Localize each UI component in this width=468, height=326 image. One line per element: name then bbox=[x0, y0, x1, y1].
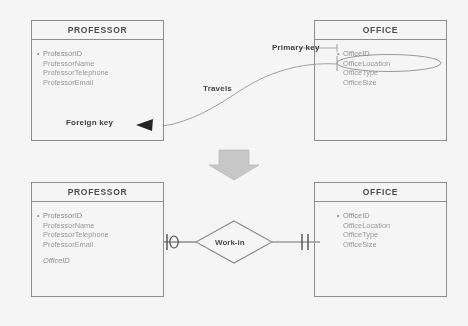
cardinality-left-circle bbox=[170, 236, 178, 248]
attribute-professoremail-bottom: ProfessorEmail bbox=[43, 240, 163, 250]
attribute-officesize-bottom: OfficeSize bbox=[343, 240, 446, 250]
entity-professor-bottom: PROFESSOR ProfessorID ProfessorName Prof… bbox=[31, 182, 164, 297]
attribute-professorname-bottom: ProfessorName bbox=[43, 221, 163, 231]
attribute-officelocation: OfficeLocation bbox=[343, 59, 446, 69]
attribute-professortelephone: ProfessorTelephone bbox=[43, 68, 163, 78]
entity-body-professor-bottom: ProfessorID ProfessorName ProfessorTelep… bbox=[32, 202, 163, 296]
entity-header-professor-top: PROFESSOR bbox=[32, 21, 163, 40]
entity-title-office-top: OFFICE bbox=[363, 25, 398, 35]
entity-title-professor-bottom: PROFESSOR bbox=[68, 187, 128, 197]
down-block-arrow-icon bbox=[209, 150, 259, 180]
entity-header-office-bottom: OFFICE bbox=[315, 183, 446, 202]
entity-body-office-bottom: OfficeID OfficeLocation OfficeType Offic… bbox=[315, 202, 446, 296]
entity-title-office-bottom: OFFICE bbox=[363, 187, 398, 197]
attribute-officeid-foreign-key: OfficeID bbox=[43, 256, 163, 266]
primary-key-label: Primary key bbox=[272, 43, 320, 52]
entity-office-top: OFFICE OfficeID OfficeLocation OfficeTyp… bbox=[314, 20, 447, 141]
er-diagram-canvas: PROFESSOR ProfessorID ProfessorName Prof… bbox=[0, 0, 468, 326]
entity-header-office-top: OFFICE bbox=[315, 21, 446, 40]
attribute-professorname: ProfessorName bbox=[43, 59, 163, 69]
attribute-officelocation-bottom: OfficeLocation bbox=[343, 221, 446, 231]
entity-body-office-top: OfficeID OfficeLocation OfficeType Offic… bbox=[315, 40, 446, 140]
attribute-officetype: OfficeType bbox=[343, 68, 446, 78]
foreign-key-label-top: Foreign key bbox=[66, 118, 113, 127]
relationship-label-work-in: Work-in bbox=[215, 238, 245, 247]
attribute-officetype-bottom: OfficeType bbox=[343, 230, 446, 240]
entity-office-bottom: OFFICE OfficeID OfficeLocation OfficeTyp… bbox=[314, 182, 447, 297]
attribute-officeid: OfficeID bbox=[343, 49, 446, 59]
travels-connector-curve bbox=[163, 64, 337, 126]
entity-header-professor-bottom: PROFESSOR bbox=[32, 183, 163, 202]
attribute-professoremail: ProfessorEmail bbox=[43, 78, 163, 88]
attribute-professorid-bottom: ProfessorID bbox=[43, 211, 163, 221]
entity-title-professor-top: PROFESSOR bbox=[68, 25, 128, 35]
travels-label: Travels bbox=[203, 84, 232, 93]
attribute-officesize: OfficeSize bbox=[343, 78, 446, 88]
attribute-professorid: ProfessorID bbox=[43, 49, 163, 59]
attribute-professortelephone-bottom: ProfessorTelephone bbox=[43, 230, 163, 240]
attribute-officeid-bottom: OfficeID bbox=[343, 211, 446, 221]
